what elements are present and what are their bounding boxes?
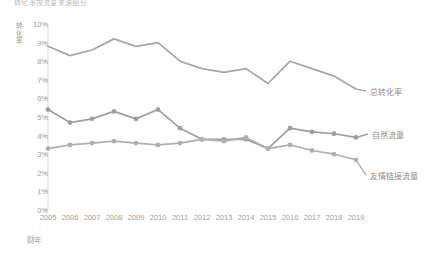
y-axis-tick: 5%	[26, 113, 48, 122]
y-axis-tick: 3%	[26, 150, 48, 159]
data-point-marker	[68, 143, 73, 148]
x-axis-tick: 2013	[216, 213, 233, 222]
series-label-2: 友情链接流量	[370, 170, 418, 181]
series-leader-line-0	[356, 89, 366, 91]
x-axis-tick: 2009	[128, 213, 145, 222]
x-axis-tick: 2015	[260, 213, 277, 222]
data-point-marker	[244, 135, 249, 140]
data-point-marker	[178, 126, 183, 131]
data-point-marker	[178, 141, 183, 146]
data-point-marker	[332, 152, 337, 157]
x-axis-tick: 2005	[40, 213, 57, 222]
y-axis-tick: 7%	[26, 75, 48, 84]
x-axis-tick: 2007	[84, 213, 101, 222]
x-axis-tick: 2018	[326, 213, 343, 222]
line-chart: 转化率按流量来源细分 转化率 0%1%2%3%4%5%6%7%8%9%10% 2…	[0, 0, 437, 260]
data-point-marker	[68, 120, 73, 125]
x-axis-tick: 2010	[150, 213, 167, 222]
x-axis-title: 财年	[27, 234, 41, 245]
data-point-marker	[156, 107, 161, 112]
y-axis-tick: 1%	[26, 187, 48, 196]
data-point-marker	[310, 148, 315, 153]
data-point-marker	[222, 139, 227, 144]
y-axis-tick: 2%	[26, 168, 48, 177]
x-axis-tick: 2012	[194, 213, 211, 222]
y-axis-title: 转化率	[14, 22, 24, 45]
y-axis-tick: 6%	[26, 94, 48, 103]
data-point-marker	[332, 131, 337, 136]
data-point-marker	[134, 116, 139, 121]
x-axis-tick-labels: 2005200620072008200920102011201220132014…	[0, 213, 437, 227]
y-axis-tick: 9%	[26, 38, 48, 47]
series-leader-line-2	[356, 160, 366, 175]
data-point-marker	[266, 146, 271, 151]
series-line-0	[48, 39, 356, 89]
data-point-marker	[112, 139, 117, 144]
y-axis-tick: 10%	[26, 20, 48, 29]
data-point-marker	[156, 143, 161, 148]
x-axis-tick: 2016	[282, 213, 299, 222]
data-point-marker	[310, 129, 315, 134]
data-point-marker	[200, 137, 205, 142]
x-axis-tick: 2011	[172, 213, 188, 222]
data-point-marker	[288, 143, 293, 148]
x-axis-tick: 2008	[106, 213, 123, 222]
x-axis-tick: 2019	[348, 213, 365, 222]
x-axis-tick: 2017	[304, 213, 321, 222]
data-point-marker	[288, 126, 293, 131]
x-axis-tick: 2006	[62, 213, 79, 222]
data-point-marker	[112, 109, 117, 114]
series-label-1: 自然流量	[372, 129, 404, 140]
data-point-marker	[90, 116, 95, 121]
series-leader-line-1	[356, 134, 368, 137]
y-axis-tick: 8%	[26, 57, 48, 66]
data-point-marker	[90, 141, 95, 146]
data-point-marker	[134, 141, 139, 146]
y-axis-tick: 4%	[26, 131, 48, 140]
series-label-0: 总转化率	[370, 86, 402, 97]
x-axis-tick: 2014	[238, 213, 255, 222]
